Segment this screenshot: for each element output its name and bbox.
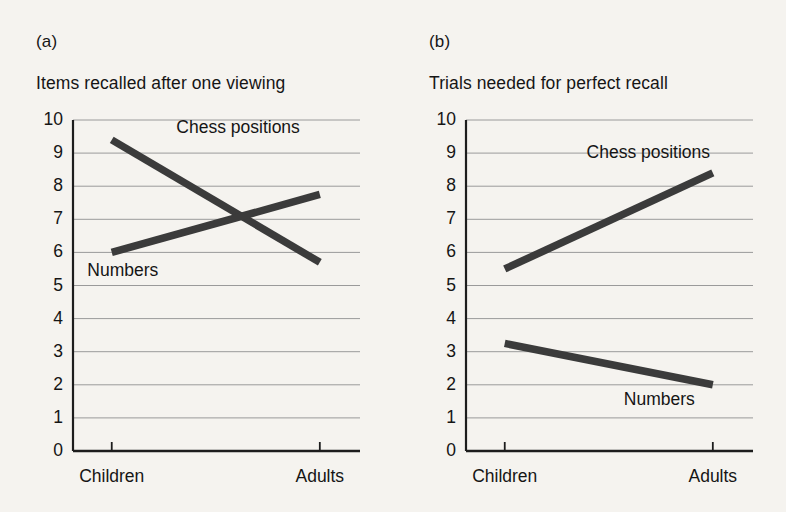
y-axis-tick-label: 6 xyxy=(428,243,456,261)
y-axis-tick-label: 8 xyxy=(428,177,456,195)
y-axis-tick-label: 9 xyxy=(428,144,456,162)
y-axis-tick-label: 3 xyxy=(428,343,456,361)
y-axis-tick-label: 10 xyxy=(35,111,63,129)
y-axis-tick-label: 0 xyxy=(428,442,456,460)
series-line xyxy=(505,343,713,384)
y-axis-tick-label: 9 xyxy=(35,144,63,162)
y-axis-tick-label: 0 xyxy=(35,442,63,460)
y-axis-tick-label: 7 xyxy=(428,210,456,228)
series-annotation-label: Chess positions xyxy=(176,119,300,137)
figure-two-panel-line-charts: (a)Items recalled after one viewing01234… xyxy=(0,0,786,512)
x-axis-tick-label: Children xyxy=(445,468,565,486)
chart-panel-a: (a)Items recalled after one viewing01234… xyxy=(0,0,393,512)
y-axis-tick-label: 10 xyxy=(428,111,456,129)
series-annotation-label: Numbers xyxy=(624,391,695,409)
y-axis-tick-label: 5 xyxy=(35,277,63,295)
series-annotation-label: Chess positions xyxy=(587,144,711,162)
x-axis-tick-label: Adults xyxy=(653,468,773,486)
y-axis-tick-label: 7 xyxy=(35,210,63,228)
y-axis-tick-label: 2 xyxy=(428,376,456,394)
y-axis-tick-label: 6 xyxy=(35,243,63,261)
chart-panel-b: (b)Trials needed for perfect recall01234… xyxy=(393,0,786,512)
series-line xyxy=(505,173,713,269)
x-axis-tick-label: Children xyxy=(52,468,172,486)
y-axis-tick-label: 4 xyxy=(35,310,63,328)
y-axis-tick-label: 5 xyxy=(428,277,456,295)
y-axis-tick-label: 8 xyxy=(35,177,63,195)
x-axis-tick-label: Adults xyxy=(260,468,380,486)
y-axis-tick-label: 3 xyxy=(35,343,63,361)
y-axis-tick-label: 1 xyxy=(428,409,456,427)
y-axis-tick-label: 2 xyxy=(35,376,63,394)
y-axis-tick-label: 1 xyxy=(35,409,63,427)
y-axis-tick-label: 4 xyxy=(428,310,456,328)
series-annotation-label: Numbers xyxy=(87,262,158,280)
